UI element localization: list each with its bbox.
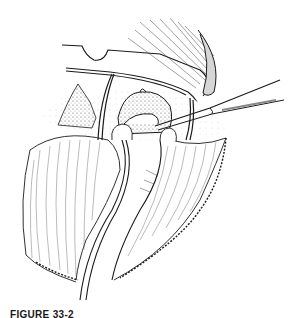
surgical-illustration bbox=[0, 0, 303, 318]
figure-caption-label: FIGURE 33-2 bbox=[10, 309, 74, 318]
upper-curved-blade bbox=[198, 30, 216, 95]
figure-caption: FIGURE 33-2 bbox=[10, 309, 74, 318]
illustration-drawing bbox=[0, 0, 303, 318]
right-retracted-fold bbox=[114, 138, 226, 280]
left-retracted-fold bbox=[23, 136, 120, 282]
right-fold-hatching bbox=[128, 142, 216, 256]
